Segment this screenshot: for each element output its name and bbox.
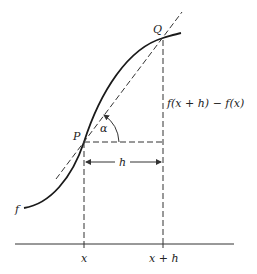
- label-x-plus-h: x + h: [149, 252, 179, 265]
- secant-diagram: Q P α f(x + h) − f(x) h f x x + h: [0, 0, 257, 274]
- label-x: x: [81, 252, 88, 265]
- label-h: h: [119, 156, 126, 169]
- label-alpha: α: [100, 122, 108, 135]
- function-curve: [24, 33, 181, 208]
- label-rise: f(x + h) − f(x): [166, 97, 244, 110]
- label-q: Q: [153, 23, 162, 36]
- label-f: f: [14, 203, 21, 216]
- label-p: P: [72, 130, 81, 143]
